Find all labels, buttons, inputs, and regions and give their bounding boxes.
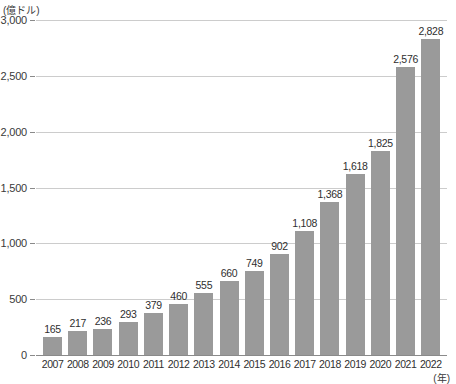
bar [68,331,87,355]
bar [396,67,415,355]
bar [346,174,365,355]
bar-value-label: 749 [242,257,267,269]
x-axis-unit-label: (年) [433,370,450,384]
axis-baseline: 0 [36,355,447,356]
bar-group: 1,368 [317,20,342,355]
bar-group: 1,108 [292,20,317,355]
bars-layer: 1652172362933794605556607499021,1081,368… [36,20,447,355]
y-axis-tick [30,355,35,356]
y-axis-tick [30,20,35,21]
bar-value-label: 2,828 [418,25,443,37]
bar-group: 165 [40,20,65,355]
x-axis-tick-label: 2008 [65,358,90,370]
x-axis-tick-label: 2009 [90,358,115,370]
bar [43,337,62,355]
bar-value-label: 460 [166,290,191,302]
bar-value-label: 379 [141,299,166,311]
x-axis-tick-label: 2017 [292,358,317,370]
y-axis-tick [30,76,35,77]
x-axis-tick-label: 2007 [40,358,65,370]
bar-group: 660 [217,20,242,355]
bar [270,254,289,355]
y-axis-tick-label: 3,000 [0,14,27,26]
plot-area: 05001,0001,5002,0002,5003,000 1652172362… [36,20,447,355]
bar-value-label: 2,576 [393,53,418,65]
bar-value-label: 236 [90,315,115,327]
bar-group: 2,828 [418,20,443,355]
bar-value-label: 555 [191,279,216,291]
bar-group: 555 [191,20,216,355]
x-axis-tick-label: 2013 [191,358,216,370]
bar-value-label: 217 [65,317,90,329]
x-axis-tick-label: 2015 [242,358,267,370]
x-axis-tick-label: 2014 [217,358,242,370]
bar [220,281,239,355]
x-axis-labels: 2007200820092010201120122013201420152016… [36,358,447,374]
x-axis-tick-label: 2016 [267,358,292,370]
bar [245,271,264,355]
bar-value-label: 1,825 [368,137,393,149]
x-axis-tick-label: 2022 [418,358,443,370]
bar-group: 1,825 [368,20,393,355]
bar-group: 293 [116,20,141,355]
x-axis-tick-label: 2011 [141,358,166,370]
x-axis-tick-label: 2010 [116,358,141,370]
y-axis-tick-label: 1,500 [0,182,27,194]
bar-group: 236 [90,20,115,355]
bar-value-label: 660 [217,267,242,279]
bar-group: 217 [65,20,90,355]
bar [119,322,138,355]
bar-group: 1,618 [343,20,368,355]
bar [421,39,440,355]
y-axis-tick [30,132,35,133]
y-axis-tick-label: 2,000 [0,126,27,138]
bar-value-label: 1,368 [317,188,342,200]
bar-value-label: 293 [116,308,141,320]
bar-group: 2,576 [393,20,418,355]
y-axis-tick-label: 2,500 [0,70,27,82]
x-axis-tick-label: 2021 [393,358,418,370]
x-axis-tick-label: 2019 [343,358,368,370]
bar-value-label: 1,618 [343,160,368,172]
bar-chart: (億ドル) 05001,0001,5002,0002,5003,000 1652… [0,0,456,384]
bar-group: 749 [242,20,267,355]
y-axis-tick [30,299,35,300]
bar-value-label: 165 [40,323,65,335]
bar-group: 460 [166,20,191,355]
x-axis-tick-label: 2012 [166,358,191,370]
y-axis-tick-label: 500 [9,293,27,305]
bar [371,151,390,355]
bar [169,304,188,355]
bar [93,329,112,355]
bar-value-label: 1,108 [292,217,317,229]
bar-group: 902 [267,20,292,355]
bar [320,202,339,355]
x-axis-tick-label: 2018 [317,358,342,370]
bar [295,231,314,355]
y-axis-tick-label: 0 [21,349,27,361]
x-axis-tick-label: 2020 [368,358,393,370]
bar [144,313,163,355]
bar-value-label: 902 [267,240,292,252]
y-axis-tick-label: 1,000 [0,237,27,249]
bar [194,293,213,355]
bar-group: 379 [141,20,166,355]
y-axis-tick [30,243,35,244]
y-axis-tick [30,188,35,189]
